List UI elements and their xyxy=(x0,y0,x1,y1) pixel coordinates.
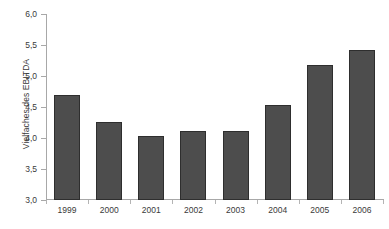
bar-chart: Vielfaches des EBITDA 6,05,55,04,54,03,5… xyxy=(0,0,389,229)
x-axis-tick xyxy=(130,200,131,204)
x-axis-tick xyxy=(172,200,173,204)
bar xyxy=(54,95,80,200)
x-axis-tick xyxy=(383,200,384,204)
bar xyxy=(349,50,375,200)
x-axis-tick xyxy=(341,200,342,204)
bar xyxy=(96,122,122,200)
y-axis-tick-label: 6,0 xyxy=(0,9,37,19)
x-axis-tick xyxy=(88,200,89,204)
x-axis-tick xyxy=(257,200,258,204)
x-axis-label: 2006 xyxy=(333,205,389,215)
bar xyxy=(180,131,206,200)
bar xyxy=(223,131,249,200)
y-axis-tick-label: 3,0 xyxy=(0,195,37,205)
y-axis-tick-label: 4,5 xyxy=(0,102,37,112)
y-axis-tick-label: 3,5 xyxy=(0,164,37,174)
y-axis-tick-label: 5,0 xyxy=(0,71,37,81)
y-axis-tick-label: 5,5 xyxy=(0,40,37,50)
x-axis-tick xyxy=(46,200,47,204)
bar xyxy=(265,105,291,200)
y-axis-tick-label: 4,0 xyxy=(0,133,37,143)
x-axis-tick xyxy=(215,200,216,204)
plot-area xyxy=(46,14,383,200)
bar xyxy=(138,136,164,200)
bar xyxy=(307,65,333,200)
x-axis-tick xyxy=(299,200,300,204)
